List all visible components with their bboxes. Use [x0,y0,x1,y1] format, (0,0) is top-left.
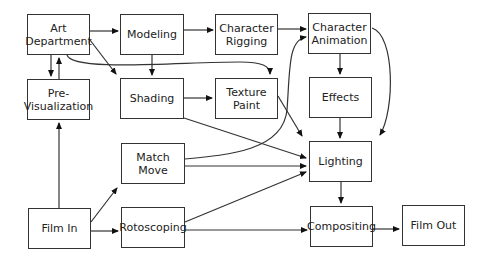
node-label: Film In [41,222,77,235]
node-label: Art Department [25,22,92,48]
node-filmout: Film Out [402,205,465,246]
edge-texture-to-light [278,96,302,136]
node-label: Character Animation [311,21,367,47]
edge-art-to-shade [90,40,116,74]
node-light: Lighting [309,141,372,182]
node-label: Lighting [318,155,362,168]
node-label: Shading [130,92,175,105]
node-model: Modeling [120,14,184,55]
edge-filmin-to-match [91,188,117,222]
node-label: Rotoscoping [119,221,186,234]
node-label: Film Out [411,219,457,232]
node-art: Art Department [27,14,90,55]
node-comp: Compositing [310,206,373,247]
node-label: Character Rigging [219,22,273,48]
edge-art-to-texture [67,55,270,74]
node-roto: Rotoscoping [121,207,185,248]
node-filmin: Film In [28,208,91,249]
node-anim: Character Animation [308,13,371,54]
edge-shade-to-light [184,118,306,158]
node-label: Texture Paint [226,86,266,112]
node-shade: Shading [120,78,184,119]
node-label: Effects [322,91,359,104]
edge-anim-to-light [372,28,390,135]
node-effects: Effects [309,77,372,118]
node-previs: Pre- Visualization [27,79,90,120]
node-label: Match Move [136,151,170,177]
node-texture: Texture Paint [215,78,278,119]
node-label: Modeling [127,28,177,41]
edge-roto-to-light [185,172,306,222]
node-label: Compositing [307,220,376,233]
node-match: Match Move [121,143,185,184]
node-rig: Character Rigging [215,14,278,55]
node-label: Pre- Visualization [24,87,93,113]
